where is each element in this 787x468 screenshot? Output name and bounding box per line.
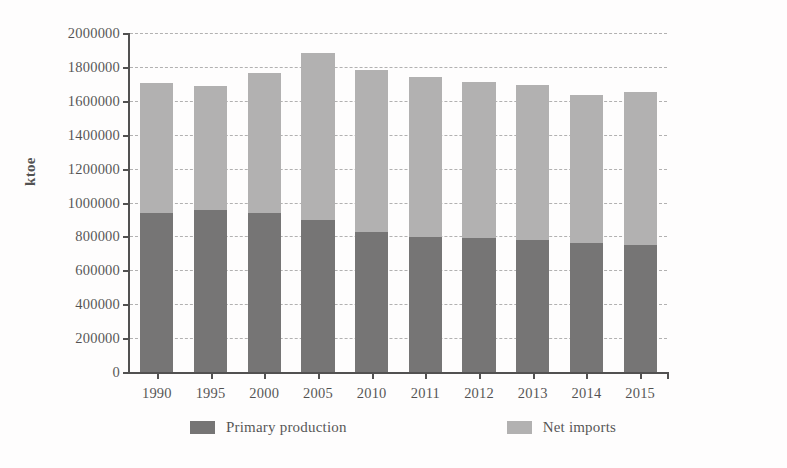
x-tick-label-1990: 1990 [142, 385, 172, 402]
bar-segment-net-imports-2013[interactable] [516, 85, 549, 240]
plot-area: 0200000400000600000800000100000012000001… [128, 33, 667, 374]
bar-segment-primary-production-2012[interactable] [462, 238, 495, 372]
x-tick-mark-2005 [318, 372, 320, 379]
y-tick-label-200000: 200000 [75, 330, 120, 347]
legend-label-primary-production: Primary production [226, 419, 347, 436]
bar-segment-net-imports-2000[interactable] [248, 73, 281, 213]
y-tick-label-400000: 400000 [75, 296, 120, 313]
bar-slot-1990 [130, 33, 184, 372]
y-tick-label-1400000: 1400000 [68, 126, 120, 143]
y-tick-mark-1800000 [123, 67, 130, 69]
bar-slot-2015 [613, 33, 667, 372]
y-tick-mark-200000 [123, 338, 130, 340]
x-axis-end-tick [667, 372, 669, 379]
bar-slot-1995 [184, 33, 238, 372]
bar-slot-2000 [237, 33, 291, 372]
bar-stack-1990[interactable] [140, 33, 173, 372]
bar-segment-primary-production-2011[interactable] [409, 237, 442, 372]
y-tick-mark-1400000 [123, 135, 130, 137]
y-tick-mark-600000 [123, 270, 130, 272]
bar-slot-2012 [452, 33, 506, 372]
bar-segment-primary-production-2005[interactable] [301, 220, 334, 372]
chart-legend: Primary production Net imports [128, 412, 665, 442]
bar-segment-primary-production-2013[interactable] [516, 240, 549, 372]
y-tick-label-600000: 600000 [75, 262, 120, 279]
bar-stack-2013[interactable] [516, 33, 549, 372]
x-tick-mark-2012 [479, 372, 481, 379]
bar-segment-primary-production-1995[interactable] [194, 210, 227, 372]
x-tick-mark-1990 [157, 372, 159, 379]
x-tick-mark-2014 [586, 372, 588, 379]
bar-slot-2011 [399, 33, 453, 372]
bar-stack-2005[interactable] [301, 33, 334, 372]
bar-stack-1995[interactable] [194, 33, 227, 372]
y-tick-label-1200000: 1200000 [68, 160, 120, 177]
bar-segment-net-imports-2015[interactable] [624, 92, 657, 244]
bar-segment-net-imports-2012[interactable] [462, 82, 495, 239]
x-tick-mark-2013 [533, 372, 535, 379]
bar-stack-2011[interactable] [409, 33, 442, 372]
y-tick-mark-0 [123, 372, 130, 374]
bar-segment-net-imports-1995[interactable] [194, 86, 227, 210]
x-tick-label-2015: 2015 [625, 385, 655, 402]
x-tick-label-2005: 2005 [303, 385, 333, 402]
y-tick-mark-1000000 [123, 203, 130, 205]
y-tick-mark-800000 [123, 236, 130, 238]
y-tick-mark-2000000 [123, 33, 130, 35]
bar-segment-primary-production-2000[interactable] [248, 213, 281, 372]
y-tick-mark-1200000 [123, 169, 130, 171]
y-tick-label-1800000: 1800000 [68, 58, 120, 75]
x-tick-mark-2010 [372, 372, 374, 379]
y-tick-mark-1600000 [123, 101, 130, 103]
y-tick-label-1000000: 1000000 [68, 194, 120, 211]
y-tick-label-800000: 800000 [75, 228, 120, 245]
bar-stack-2000[interactable] [248, 33, 281, 372]
bar-slot-2014 [560, 33, 614, 372]
bar-segment-net-imports-2011[interactable] [409, 77, 442, 237]
y-tick-mark-400000 [123, 304, 130, 306]
bar-stack-2014[interactable] [570, 33, 603, 372]
bar-slot-2010 [345, 33, 399, 372]
x-tick-label-2010: 2010 [357, 385, 387, 402]
y-tick-label-2000000: 2000000 [68, 25, 120, 42]
bar-segment-net-imports-2010[interactable] [355, 70, 388, 232]
x-tick-mark-2000 [264, 372, 266, 379]
y-tick-label-0: 0 [113, 364, 120, 381]
bar-segment-primary-production-2010[interactable] [355, 232, 388, 372]
bar-slot-2013 [506, 33, 560, 372]
bar-stack-2015[interactable] [624, 33, 657, 372]
bar-segment-primary-production-2015[interactable] [624, 245, 657, 372]
x-tick-label-2011: 2011 [411, 385, 440, 402]
legend-label-net-imports: Net imports [543, 419, 616, 436]
bar-segment-net-imports-2005[interactable] [301, 53, 334, 220]
x-tick-label-2013: 2013 [518, 385, 548, 402]
bar-stack-2010[interactable] [355, 33, 388, 372]
x-tick-mark-2011 [425, 372, 427, 379]
bar-segment-net-imports-2014[interactable] [570, 95, 603, 243]
x-tick-label-2012: 2012 [464, 385, 494, 402]
bar-stack-2012[interactable] [462, 33, 495, 372]
y-axis-title: ktoe [22, 157, 39, 186]
bar-segment-net-imports-1990[interactable] [140, 83, 173, 213]
bar-segment-primary-production-2014[interactable] [570, 243, 603, 372]
legend-swatch-net-imports [507, 421, 532, 434]
bar-segment-primary-production-1990[interactable] [140, 213, 173, 372]
x-tick-label-1995: 1995 [196, 385, 226, 402]
stacked-bar-chart: ktoe 02000004000006000008000001000000120… [0, 0, 787, 468]
x-tick-label-2014: 2014 [572, 385, 602, 402]
legend-swatch-primary-production [190, 421, 215, 434]
legend-item-primary-production: Primary production [190, 419, 347, 436]
legend-item-net-imports: Net imports [507, 419, 616, 436]
x-tick-mark-1995 [211, 372, 213, 379]
bar-slot-2005 [291, 33, 345, 372]
x-tick-label-2000: 2000 [249, 385, 279, 402]
x-tick-mark-2015 [640, 372, 642, 379]
bars-layer [130, 33, 667, 372]
y-tick-label-1600000: 1600000 [68, 92, 120, 109]
